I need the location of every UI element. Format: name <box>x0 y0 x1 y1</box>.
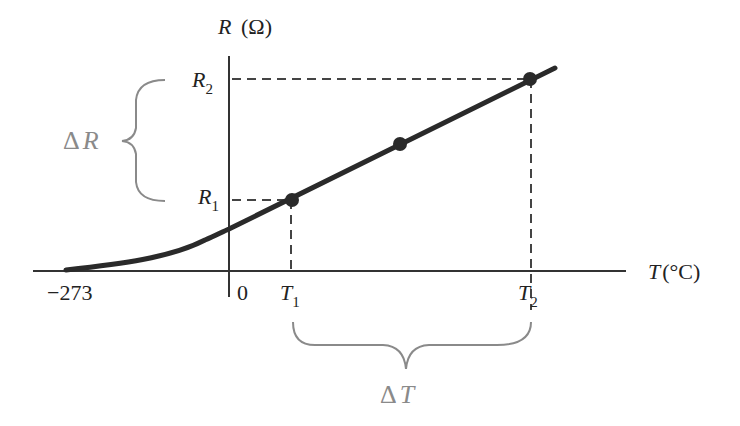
resistance-curve <box>66 68 555 270</box>
delta-t-brace <box>293 322 531 369</box>
point-mid <box>393 137 407 151</box>
y-axis-label: R (Ω) <box>217 14 272 39</box>
r2-label: R2 <box>191 67 213 97</box>
point-t1 <box>285 193 299 207</box>
x-axis-label: T(°C) <box>648 259 700 284</box>
abs-zero-label: −273 <box>47 280 92 305</box>
delta-r-label: ΔR <box>63 126 99 155</box>
resistance-temperature-diagram: R (Ω) R2 R1 ΔR −273 0 T1 T2 T(°C) ΔT <box>0 0 740 426</box>
delta-t-label: ΔT <box>380 380 416 409</box>
t1-label: T1 <box>280 280 300 310</box>
zero-label: 0 <box>237 280 248 305</box>
t2-label: T2 <box>518 280 538 310</box>
r1-label: R1 <box>197 184 219 214</box>
point-t2 <box>523 72 537 86</box>
delta-r-brace <box>122 80 165 201</box>
